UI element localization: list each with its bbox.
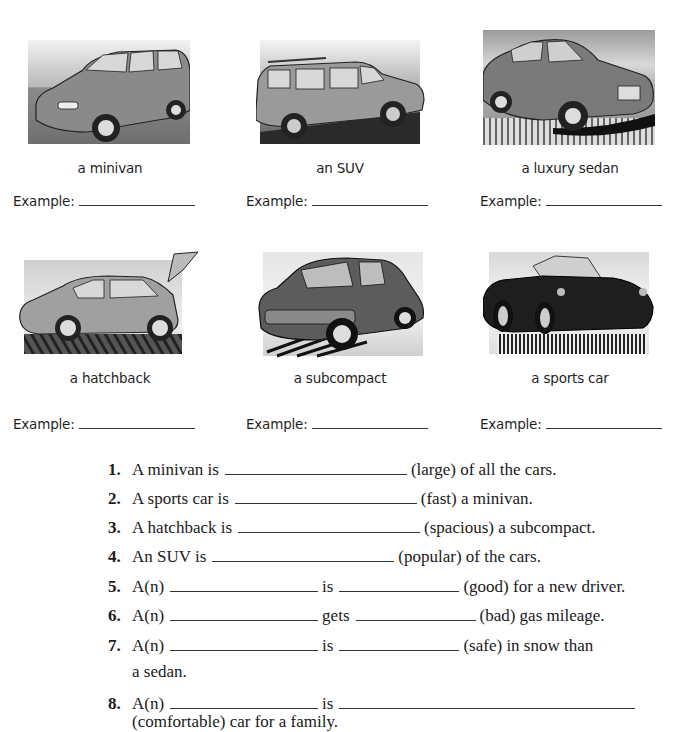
exercise-number: 2. [108, 489, 132, 509]
suv-illustration [256, 40, 426, 144]
exercise-text: is [322, 636, 333, 655]
example-label: Example: [13, 416, 75, 432]
example-blank[interactable] [79, 193, 195, 206]
exercise-text: A minivan is [132, 460, 219, 479]
exercise-text: A(n) [132, 636, 164, 655]
exercise-text: is [322, 694, 333, 713]
minivan-illustration [28, 40, 190, 144]
exercise-text: (popular) of the cars. [398, 547, 541, 566]
exercise-text: (bad) gas mileage. [480, 606, 605, 625]
vehicle-caption: a subcompact [230, 370, 450, 386]
exercise-3: 3.A hatchback is(spacious) a subcompact. [108, 518, 595, 538]
exercise-number: 4. [108, 547, 132, 567]
vehicle-caption: a sports car [460, 370, 677, 386]
answer-blank[interactable] [170, 579, 318, 592]
example-field: Example: [13, 193, 195, 209]
example-field: Example: [480, 416, 662, 432]
example-blank[interactable] [546, 416, 662, 429]
vehicle-caption: a hatchback [0, 370, 220, 386]
exercise-number: 3. [108, 518, 132, 538]
exercise-text: An SUV is [132, 547, 206, 566]
answer-blank[interactable] [212, 549, 394, 562]
example-label: Example: [246, 416, 308, 432]
exercise-2: 2.A sports car is(fast) a minivan. [108, 489, 533, 509]
exercise-1: 1.A minivan is(large) of all the cars. [108, 460, 556, 480]
exercise-number: 7. [108, 636, 132, 656]
sports-car-illustration [483, 252, 655, 354]
example-field: Example: [13, 416, 195, 432]
vehicle-caption: an SUV [230, 160, 450, 176]
answer-blank[interactable] [339, 638, 459, 651]
exercise-text: (large) of all the cars. [411, 460, 557, 479]
example-field: Example: [246, 193, 428, 209]
exercise-8-continuation: (comfortable) car for a family. [132, 712, 338, 732]
exercise-text: A sports car is [132, 489, 229, 508]
exercise-4: 4.An SUV is(popular) of the cars. [108, 547, 541, 567]
hatchback-illustration [18, 250, 200, 354]
example-label: Example: [246, 193, 308, 209]
exercise-text: gets [322, 606, 349, 625]
exercise-5: 5.A(n)is(good) for a new driver. [108, 577, 625, 597]
exercise-7-continuation: a sedan. [132, 662, 187, 682]
answer-blank[interactable] [238, 520, 420, 533]
example-field: Example: [480, 193, 662, 209]
answer-blank[interactable] [170, 608, 318, 621]
exercise-number: 8. [108, 694, 132, 714]
exercise-text: A(n) [132, 694, 164, 713]
example-blank[interactable] [79, 416, 195, 429]
exercise-7: 7.A(n)is(safe) in snow than [108, 636, 593, 656]
exercise-text: (fast) a minivan. [421, 489, 533, 508]
answer-blank[interactable] [225, 462, 407, 475]
answer-blank[interactable] [170, 638, 318, 651]
answer-blank[interactable] [235, 491, 417, 504]
exercise-text: is [322, 577, 333, 596]
exercise-number: 5. [108, 577, 132, 597]
exercise-text: (good) for a new driver. [463, 577, 625, 596]
example-blank[interactable] [312, 416, 428, 429]
subcompact-illustration [257, 248, 429, 360]
exercise-number: 1. [108, 460, 132, 480]
exercise-text: A hatchback is [132, 518, 232, 537]
answer-blank[interactable] [356, 608, 476, 621]
exercise-text: (safe) in snow than [463, 636, 593, 655]
example-blank[interactable] [312, 193, 428, 206]
example-field: Example: [246, 416, 428, 432]
vehicle-caption: a luxury sedan [460, 160, 677, 176]
vehicle-caption: a minivan [0, 160, 220, 176]
luxury-sedan-illustration [483, 30, 655, 145]
answer-blank[interactable] [339, 696, 635, 709]
exercise-text: A(n) [132, 577, 164, 596]
exercise-text: A(n) [132, 606, 164, 625]
example-label: Example: [13, 193, 75, 209]
exercise-text: (spacious) a subcompact. [424, 518, 595, 537]
answer-blank[interactable] [339, 579, 459, 592]
answer-blank[interactable] [170, 696, 318, 709]
exercise-8: 8.A(n)is [108, 694, 639, 714]
exercise-6: 6.A(n)gets(bad) gas mileage. [108, 606, 605, 626]
exercise-number: 6. [108, 606, 132, 626]
example-label: Example: [480, 193, 542, 209]
example-label: Example: [480, 416, 542, 432]
example-blank[interactable] [546, 193, 662, 206]
